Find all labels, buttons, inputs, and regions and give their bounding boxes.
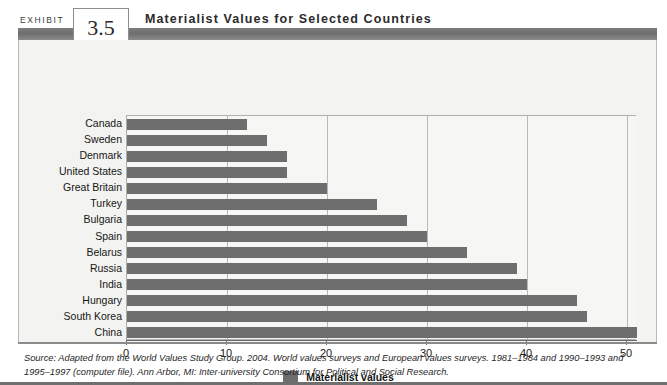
bar-row[interactable]: [127, 263, 637, 274]
bar-turkey[interactable]: [127, 199, 377, 210]
category-label-hungary: Hungary: [22, 292, 122, 308]
bar-great-britain[interactable]: [127, 183, 327, 194]
bar-row[interactable]: [127, 231, 637, 242]
bar-row[interactable]: [127, 279, 637, 290]
bar-united-states[interactable]: [127, 167, 287, 178]
category-label-sweden: Sweden: [22, 131, 122, 147]
page-title: Materialist Values for Selected Countrie…: [145, 12, 432, 26]
bar-row[interactable]: [127, 199, 637, 210]
category-label-china: China: [22, 324, 122, 340]
bar-sweden[interactable]: [127, 135, 267, 146]
bar-russia[interactable]: [127, 263, 517, 274]
bar-row[interactable]: [127, 119, 637, 130]
exhibit-label: EXHIBIT: [20, 15, 64, 25]
x-axis-line: [126, 340, 637, 341]
bar-row[interactable]: [127, 311, 637, 322]
bar-row[interactable]: [127, 215, 637, 226]
bar-canada[interactable]: [127, 119, 247, 130]
category-label-denmark: Denmark: [22, 147, 122, 163]
category-label-south-korea: South Korea: [22, 308, 122, 324]
bar-bulgaria[interactable]: [127, 215, 407, 226]
bar-belarus[interactable]: [127, 247, 467, 258]
bar-hungary[interactable]: [127, 295, 577, 306]
category-label-belarus: Belarus: [22, 244, 122, 260]
bar-row[interactable]: [127, 247, 637, 258]
category-label-great-britain: Great Britain: [22, 179, 122, 195]
bar-spain[interactable]: [127, 231, 427, 242]
plot-area: [126, 115, 636, 340]
bar-row[interactable]: [127, 183, 637, 194]
bar-india[interactable]: [127, 279, 527, 290]
bar-south-korea[interactable]: [127, 311, 587, 322]
bar-china[interactable]: [127, 327, 637, 338]
category-label-india: India: [22, 276, 122, 292]
source-note: Source: Adapted from the World Values St…: [24, 352, 649, 379]
category-label-united-states: United States: [22, 163, 122, 179]
category-label-turkey: Turkey: [22, 195, 122, 211]
category-label-canada: Canada: [22, 115, 122, 131]
category-label-russia: Russia: [22, 260, 122, 276]
source-divider: [18, 342, 657, 344]
bar-row[interactable]: [127, 327, 637, 338]
category-axis-labels: CanadaSwedenDenmarkUnited StatesGreat Br…: [19, 115, 122, 340]
bar-row[interactable]: [127, 295, 637, 306]
category-label-bulgaria: Bulgaria: [22, 211, 122, 227]
bar-row[interactable]: [127, 167, 637, 178]
chart-container: CanadaSwedenDenmarkUnited StatesGreat Br…: [18, 40, 657, 342]
bar-denmark[interactable]: [127, 151, 287, 162]
bar-row[interactable]: [127, 151, 637, 162]
category-label-spain: Spain: [22, 228, 122, 244]
bar-row[interactable]: [127, 135, 637, 146]
